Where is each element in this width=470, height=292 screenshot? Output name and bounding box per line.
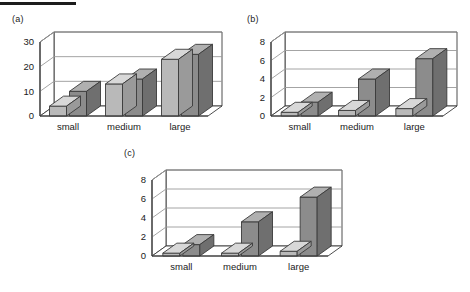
panel-c-chart: 02468smallmediumlarge — [120, 164, 352, 284]
svg-text:30: 30 — [23, 36, 34, 47]
panel-c-label: (c) — [124, 148, 135, 158]
svg-text:6: 6 — [141, 193, 146, 204]
svg-text:medium: medium — [107, 121, 141, 132]
svg-text:4: 4 — [260, 73, 265, 84]
svg-text:large: large — [169, 121, 190, 132]
svg-text:medium: medium — [223, 261, 257, 272]
svg-text:8: 8 — [260, 36, 265, 47]
svg-text:2: 2 — [141, 231, 146, 242]
svg-text:20: 20 — [23, 61, 34, 72]
svg-text:large: large — [404, 121, 425, 132]
top-rule — [0, 2, 76, 5]
svg-text:0: 0 — [29, 110, 34, 121]
figure-root: (a) 0102030smallmediumlarge (b) 02468sma… — [0, 0, 470, 292]
panel-b-label: (b) — [247, 14, 259, 24]
svg-text:small: small — [289, 121, 311, 132]
panel-b-chart: 02468smallmediumlarge — [243, 28, 465, 142]
panel-a-chart: 0102030smallmediumlarge — [8, 28, 230, 142]
panel-a-label: (a) — [12, 14, 24, 24]
svg-text:0: 0 — [141, 250, 146, 261]
svg-text:6: 6 — [260, 55, 265, 66]
svg-text:4: 4 — [141, 212, 146, 223]
svg-text:medium: medium — [340, 121, 374, 132]
panel-a: (a) 0102030smallmediumlarge — [8, 14, 228, 142]
svg-text:small: small — [170, 261, 192, 272]
panel-c: (c) 02468smallmediumlarge — [120, 148, 350, 288]
svg-text:8: 8 — [141, 174, 146, 185]
panel-b: (b) 02468smallmediumlarge — [243, 14, 463, 142]
svg-text:0: 0 — [260, 110, 265, 121]
svg-text:large: large — [288, 261, 309, 272]
svg-text:2: 2 — [260, 92, 265, 103]
svg-text:10: 10 — [23, 86, 34, 97]
svg-text:small: small — [57, 121, 79, 132]
